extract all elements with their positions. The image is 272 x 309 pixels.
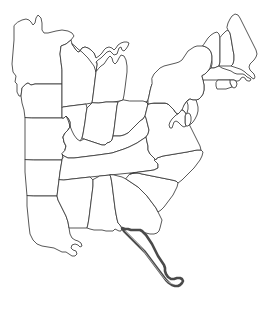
- state-ar[interactable]: Arkansas: [25, 160, 62, 196]
- eastern-us-map: MinnesotaIowaMissouriArkansasLouisianaWi…: [0, 0, 272, 309]
- state-ct[interactable]: Connecticut: [216, 80, 232, 89]
- map-container: MinnesotaIowaMissouriArkansasLouisianaWi…: [0, 0, 272, 309]
- state-ia[interactable]: Iowa: [21, 83, 62, 118]
